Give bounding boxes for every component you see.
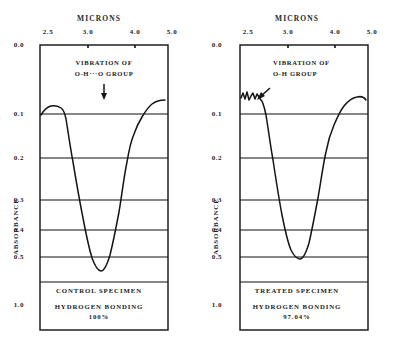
plot-area-control <box>0 0 198 355</box>
annotation-line2-control: O-H···O GROUP <box>75 69 134 78</box>
diagonal-arrow-icon <box>257 88 270 100</box>
annotation-line1-treated: VIBRATION OF <box>273 58 330 67</box>
ir-spectra-figure: MICRONS 2.5 3.0 4.0 5.0 0.0 0.1 0.2 0.3 … <box>0 0 396 355</box>
panel-treated: MICRONS 2.5 3.0 4.0 5.0 0.0 0.1 0.2 0.3 … <box>198 0 396 355</box>
caption-bonding-treated: HYDROGEN BONDING <box>198 303 396 310</box>
caption-percent-treated: 97.04% <box>198 313 396 320</box>
down-arrow-icon <box>101 84 107 100</box>
caption-bonding-control: HYDROGEN BONDING <box>0 303 198 310</box>
caption-title-treated: TREATED SPECIMEN <box>198 287 396 294</box>
panel-control: MICRONS 2.5 3.0 4.0 5.0 0.0 0.1 0.2 0.3 … <box>0 0 198 355</box>
caption-percent-control: 100% <box>0 313 198 320</box>
annotation-line2-treated: O-H GROUP <box>273 69 317 78</box>
caption-title-control: CONTROL SPECIMEN <box>0 287 198 294</box>
annotation-line1-control: VIBRATION OF <box>76 58 133 67</box>
plot-area-treated <box>198 0 396 355</box>
